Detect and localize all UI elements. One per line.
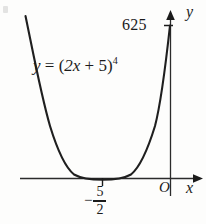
quartic-curve [26,16,171,180]
y-axis-label: y [186,4,193,20]
x-axis-arrowhead [193,174,203,183]
y-axis-arrowhead [166,10,175,20]
x-root-fraction: 5 2 [93,185,106,217]
function-graph-figure: y = (2x + 5)4 625 y x O − 5 2 [0,0,206,224]
equation-exponent: 4 [113,55,118,66]
equation-equals: = [41,56,59,75]
equation-plus: + [80,56,98,75]
x-root-tick-label: − 5 2 [84,185,106,217]
y-tick-label-625: 625 [122,17,147,33]
x-axis-label: x [186,180,193,196]
origin-label: O [159,180,170,195]
equation-coefficient-term: 2x [64,56,80,75]
equation-constant: 5 [98,56,107,75]
x-root-numerator: 5 [94,185,105,199]
x-root-minus-sign: − [84,193,92,208]
curve-equation-label: y = (2x + 5)4 [33,56,118,74]
x-root-denominator: 2 [94,203,105,217]
equation-lhs: y [33,56,41,75]
